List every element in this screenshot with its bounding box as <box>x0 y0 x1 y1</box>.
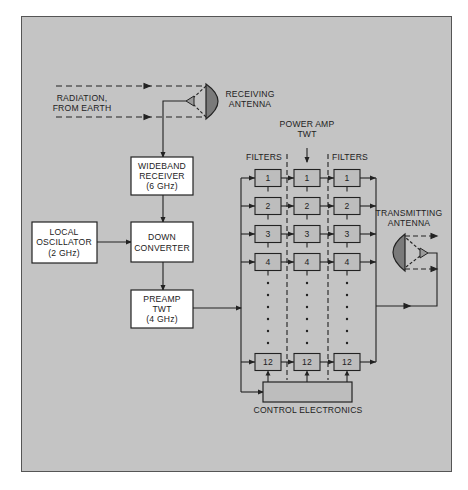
channel-3-label: 3 <box>305 229 310 239</box>
wideband-receiver-line-3: (6 GHz) <box>146 181 177 191</box>
channel-3-label: 3 <box>345 229 350 239</box>
channel-12-label: 12 <box>342 357 352 367</box>
channel-12-label: 12 <box>263 357 273 367</box>
filters-right-label: FILTERS <box>332 152 368 162</box>
channel-4-label: 4 <box>345 257 350 267</box>
local-oscillator-line-1: LOCAL <box>49 227 78 237</box>
channel-1-label: 1 <box>305 173 310 183</box>
filters-left-label: FILTERS <box>246 152 282 162</box>
radiation-label-1: RADIATION, <box>57 93 108 103</box>
transponder-diagram: 111222333444121212 RADIATION, FROM EARTH… <box>0 0 468 490</box>
channel-12-label: 12 <box>302 357 312 367</box>
wideband-receiver-line-1: WIDEBAND <box>138 161 186 171</box>
channel-2-label: 2 <box>266 201 271 211</box>
preamp-line-2: TWT <box>152 304 172 314</box>
preamp-line-1: PREAMP <box>143 294 181 304</box>
channel-3-label: 3 <box>266 229 271 239</box>
transmitting-antenna-label-1: TRANSMITTING <box>376 208 443 218</box>
power-amp-label-1: POWER AMP <box>280 119 335 129</box>
receiving-antenna-label-2: ANTENNA <box>229 99 272 109</box>
down-converter-line-2: CONVERTER <box>134 243 190 253</box>
preamp-line-3: (4 GHz) <box>146 314 177 324</box>
power-amp-label-2: TWT <box>297 129 317 139</box>
control-electronics-box <box>263 382 352 402</box>
channel-1-label: 1 <box>345 173 350 183</box>
channel-2-label: 2 <box>305 201 310 211</box>
channel-1-label: 1 <box>266 173 271 183</box>
radiation-label-2: FROM EARTH <box>53 103 112 113</box>
down-converter-box <box>131 222 193 262</box>
channel-2-label: 2 <box>345 201 350 211</box>
local-oscillator-line-3: (2 GHz) <box>48 248 79 258</box>
transmitting-antenna-label-2: ANTENNA <box>388 218 431 228</box>
receiving-antenna-label-1: RECEIVING <box>225 89 274 99</box>
channel-4-label: 4 <box>266 257 271 267</box>
control-electronics-label: CONTROL ELECTRONICS <box>253 405 362 415</box>
wideband-receiver-line-2: RECEIVER <box>139 171 185 181</box>
channel-4-label: 4 <box>305 257 310 267</box>
local-oscillator-line-2: OSCILLATOR <box>36 237 92 247</box>
down-converter-line-1: DOWN <box>148 232 176 242</box>
transmitting-antenna-icon <box>393 234 428 271</box>
